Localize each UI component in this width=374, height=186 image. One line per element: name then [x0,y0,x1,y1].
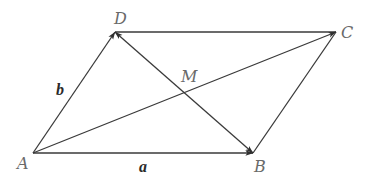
parallelogram-diagram: D C A B M a b [0,0,374,186]
vertex-label-D: D [113,9,127,28]
vector-b-AD [33,32,115,153]
edge-BC [253,32,336,153]
vector-label-b: b [56,81,64,98]
diagonal-DB [115,32,253,153]
vector-label-a: a [139,158,147,175]
vertex-label-C: C [341,23,353,42]
vertex-label-B: B [253,157,266,176]
intersection-label-M: M [180,67,198,86]
vertex-label-A: A [15,154,29,173]
